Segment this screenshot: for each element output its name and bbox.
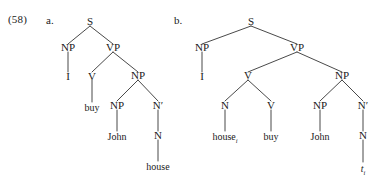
figure-canvas: (58) a. b. S NP VP I V NP buy NP N′ John xyxy=(0,0,382,191)
node-b-s: S xyxy=(248,15,254,27)
leaf-b-john: John xyxy=(311,131,330,142)
node-b-np-spec: NP xyxy=(313,99,327,111)
node-b-n: N xyxy=(359,129,367,141)
node-b-vp: VP xyxy=(290,41,304,53)
leaf-b-house-text: house xyxy=(212,131,236,142)
node-b-np-obj: NP xyxy=(335,69,349,81)
node-b-nbar: N′ xyxy=(358,99,368,111)
node-b-n-incorporated: N xyxy=(221,99,229,111)
node-b-np-subj: NP xyxy=(195,41,209,53)
branch-b-vp-v xyxy=(248,52,297,72)
leaf-b-house: housei xyxy=(212,131,237,144)
node-b-i: I xyxy=(200,70,204,82)
leaf-b-buy: buy xyxy=(264,131,279,142)
branch-b-np-npspec xyxy=(320,80,342,101)
branch-b-v-n xyxy=(225,80,248,101)
leaf-b-house-subscript: i xyxy=(236,137,238,144)
branch-b-v-vhead xyxy=(248,80,271,101)
node-b-v: V xyxy=(244,69,252,81)
syntax-tree-b: S NP VP I V NP N V NP N′ housei buy John… xyxy=(0,0,382,191)
branch-b-np-nbar xyxy=(342,80,363,101)
branch-b-s-np xyxy=(202,26,251,44)
leaf-b-trace-subscript: i xyxy=(363,169,365,176)
leaf-b-trace: ti xyxy=(361,163,366,176)
node-b-v-head: V xyxy=(267,99,275,111)
